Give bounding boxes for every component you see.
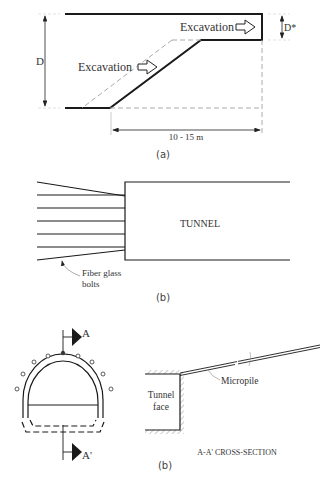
tunnel-label: TUNNEL [180,218,220,229]
panel-c-caption: (b) [158,460,172,471]
panel-b-caption: (b) [156,292,170,303]
dim-d-label: D [36,55,44,67]
excavation-label-lower: Excavation [78,60,132,74]
micropile-label: Micropile [221,376,258,386]
section-arrow-bottom-icon [72,443,82,461]
micropile-leader-line [208,370,220,380]
panel-b: TUNNEL Fiber glass bolts (b) [37,182,290,303]
bolts-label-line2: bolts [82,279,100,289]
micropile [180,345,320,376]
section-label-top: A [82,327,90,339]
section-arrow-top-icon [72,328,82,346]
micropile-circles [15,351,113,391]
panel-a-caption: (a) [156,149,170,160]
section-title: A-A' CROSS-SECTION [197,448,277,457]
section-label-bottom: A' [82,449,92,461]
tunnel-face-label-line2: face [153,402,169,412]
fiber-glass-bolts [37,182,125,260]
tunnel-arch-inner [28,361,98,418]
excavation-arrow-lower-icon [138,60,157,74]
bolts-leader-line [62,261,80,276]
panel-c: A A' Tunnel face Micropile A-A' CROSS-SE… [15,327,320,471]
excavation-arrow-upper-icon [236,20,255,34]
previous-profile-diagonal [82,40,172,108]
dim-dstar-label: D* [284,22,296,33]
panel-a: D D* Excavation Excavation 10 - 15 m (a) [36,14,296,160]
figure-canvas: D D* Excavation Excavation 10 - 15 m (a)… [0,0,333,492]
bolts-label-line1: Fiber glass [82,268,122,278]
dim-length-label: 10 - 15 m [169,132,204,142]
excavation-label-upper: Excavation [180,20,234,34]
tunnel-face-label-line1: Tunnel [148,390,175,400]
